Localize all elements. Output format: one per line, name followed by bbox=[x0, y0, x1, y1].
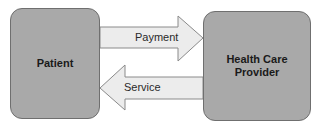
provider-label: Health Care Provider bbox=[226, 53, 287, 79]
patient-node: Patient bbox=[10, 8, 100, 119]
provider-node: Health Care Provider bbox=[203, 11, 311, 121]
patient-label: Patient bbox=[37, 57, 74, 70]
provider-label-line1: Health Care bbox=[226, 53, 287, 65]
service-label: Service bbox=[124, 81, 161, 93]
payment-label: Payment bbox=[135, 31, 178, 43]
provider-label-line2: Provider bbox=[235, 66, 280, 78]
